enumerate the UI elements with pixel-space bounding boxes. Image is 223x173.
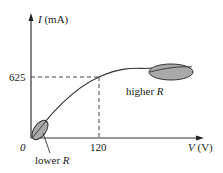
lower-r-ellipse <box>29 118 51 143</box>
higher-r-text: higher <box>126 85 157 97</box>
lower-r-text: lower <box>35 154 63 166</box>
x-axis-symbol: V <box>188 141 195 153</box>
lower-r-label: lower R <box>35 155 70 166</box>
y-axis-label: I (mA) <box>38 14 68 25</box>
lower-r-symbol: R <box>63 154 70 166</box>
y-axis-unit: (mA) <box>44 13 68 25</box>
higher-r-symbol: R <box>157 85 164 97</box>
lower-r-pointer <box>43 133 50 153</box>
x-axis-label: V (V) <box>188 142 213 153</box>
y-axis-symbol: I <box>38 13 42 25</box>
x-axis-unit: (V) <box>197 141 212 153</box>
iv-curve <box>33 68 152 136</box>
y-axis-arrow-icon <box>29 13 34 21</box>
origin-label: 0 <box>20 142 26 153</box>
y-marker-label: 625 <box>9 72 26 83</box>
x-axis-arrow-icon <box>196 136 204 141</box>
x-marker-label: 120 <box>90 142 107 153</box>
higher-r-label: higher R <box>126 86 164 97</box>
